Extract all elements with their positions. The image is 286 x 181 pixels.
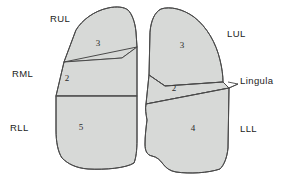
right-upper-lobe-segment-number: 3 xyxy=(96,38,101,48)
lung-lobe-diagram: 3 2 5 3 2 4 RUL RML RLL LUL xyxy=(0,0,286,181)
right-lung-group: 3 2 5 xyxy=(56,7,137,169)
right-middle-lobe-segment-number: 2 xyxy=(65,73,70,83)
label-lingula: Lingula xyxy=(240,76,273,86)
label-right-lower-lobe: RLL xyxy=(10,123,29,133)
left-upper-lobe-shape xyxy=(149,8,223,86)
right-lower-lobe-shape xyxy=(56,96,137,169)
lingula-leader-line xyxy=(228,82,238,88)
left-lower-lobe-segment-number: 4 xyxy=(191,123,196,133)
right-upper-lobe-shape xyxy=(64,7,137,62)
label-left-upper-lobe: LUL xyxy=(227,29,246,39)
left-lingula-segment-number: 2 xyxy=(172,83,177,93)
label-right-middle-lobe: RML xyxy=(12,69,33,79)
label-right-upper-lobe: RUL xyxy=(50,14,70,24)
right-lower-lobe-segment-number: 5 xyxy=(79,122,84,132)
left-lung-group: 3 2 4 xyxy=(145,8,229,173)
left-upper-lobe-segment-number: 3 xyxy=(180,40,185,50)
label-left-lower-lobe: LLL xyxy=(240,124,257,134)
